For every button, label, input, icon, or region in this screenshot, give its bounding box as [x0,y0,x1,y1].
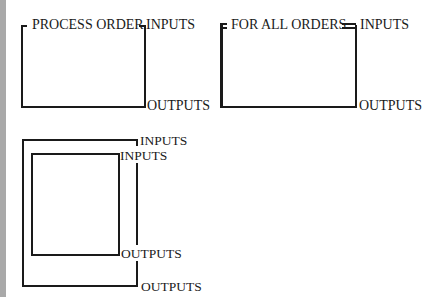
for-all-orders-title: FOR ALL ORDERS [231,18,346,32]
for-all-orders-top-left-tick-1 [220,23,227,25]
outer-block-bottom-line [22,285,137,287]
process-order-right-line [144,25,146,108]
outer-inputs-label: INPUTS [140,134,187,148]
inner-block-bottom-line [31,254,119,256]
outer-block-right-line-middle [136,163,138,245]
for-all-orders-left-line [220,23,223,108]
process-order-outputs-label: OUTPUTS [147,99,210,113]
outer-block-left-line [22,139,24,286]
process-order-bottom-line [21,106,145,108]
process-order-left-line [21,25,23,108]
process-order-top-left-tick [21,25,27,27]
process-order-title: PROCESS ORDER [32,18,144,32]
inner-block-top-line [31,153,119,155]
for-all-orders-top-left-tick-2 [220,27,227,29]
outer-block-top-line [22,139,137,141]
inner-block-right-line [118,153,120,256]
left-margin-strip [0,0,6,297]
outer-outputs-label: OUTPUTS [141,280,202,294]
inner-inputs-label: INPUTS [120,149,167,163]
inner-block-left-line [31,153,33,256]
for-all-orders-outputs-label: OUTPUTS [359,99,422,113]
inner-outputs-label: OUTPUTS [121,247,182,261]
for-all-orders-inputs-label: INPUTS [360,18,409,32]
for-all-orders-bottom-line [220,106,356,108]
for-all-orders-right-line [355,25,357,108]
outer-block-right-line-top [136,139,138,146]
process-order-inputs-label: INPUTS [146,18,195,32]
outer-block-right-line-bottom [136,261,138,287]
